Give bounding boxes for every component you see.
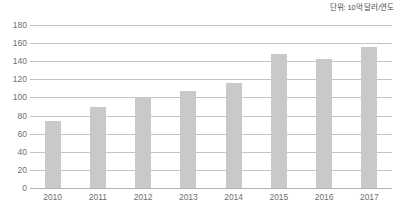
x-tick-label-2010: 2010 <box>43 192 62 202</box>
y-tick-label-80: 80 <box>1 112 27 121</box>
bar-2010[interactable] <box>45 121 61 188</box>
x-tick-label-2013: 2013 <box>179 192 198 202</box>
y-tick-label-20: 20 <box>1 166 27 175</box>
y-tick-label-100: 100 <box>1 93 27 102</box>
bar-2013[interactable] <box>180 91 196 188</box>
x-tick-label-2014: 2014 <box>224 192 243 202</box>
bar-2015[interactable] <box>271 54 287 188</box>
bar-2011[interactable] <box>90 107 106 188</box>
gridline-0 <box>30 188 392 189</box>
chart-unit-note: 단위: 10억 달러/연도 <box>330 3 394 13</box>
y-tick-label-0: 0 <box>1 184 27 193</box>
bar-2012[interactable] <box>135 97 151 188</box>
x-tick-label-2017: 2017 <box>360 192 379 202</box>
bar-2014[interactable] <box>226 83 242 188</box>
x-tick-label-2011: 2011 <box>89 192 107 202</box>
y-tick-label-60: 60 <box>1 130 27 139</box>
y-tick-label-140: 140 <box>1 57 27 66</box>
x-tick-label-2012: 2012 <box>134 192 153 202</box>
y-tick-label-160: 160 <box>1 39 27 48</box>
y-axis-labels: 180160140120100806040200 <box>0 25 27 188</box>
bar-chart-figure: 단위: 10억 달러/연도 180160140120100806040200 2… <box>0 0 399 217</box>
x-tick-label-2016: 2016 <box>315 192 334 202</box>
bar-2016[interactable] <box>316 59 332 188</box>
bar-series <box>30 25 392 188</box>
y-tick-label-180: 180 <box>1 21 27 30</box>
x-axis-labels: 20102011201220132014201520162017 <box>30 192 392 208</box>
bar-2017[interactable] <box>361 47 377 188</box>
y-tick-label-120: 120 <box>1 75 27 84</box>
plot-area <box>30 25 392 188</box>
y-tick-label-40: 40 <box>1 148 27 157</box>
x-tick-label-2015: 2015 <box>269 192 288 202</box>
